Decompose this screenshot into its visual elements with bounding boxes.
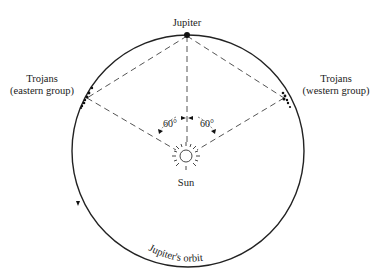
jupiter-label: Jupiter [164,17,210,29]
jupiter-dot [184,32,190,38]
trojans-diagram: Jupiter's orbit Jupiter Trojans (eastern… [0,0,379,274]
trojans-east-cluster [80,87,93,109]
sun-icon [172,142,200,170]
orbit-arrow-left-icon [76,201,80,206]
trojans-east-title: Trojans [3,73,81,85]
angle-left-label: 60° [159,118,181,130]
jupiter-to-east-line [87,36,187,98]
trojans-west-title: Trojans [295,73,377,85]
trojans-west-subtitle: (western group) [295,85,377,97]
angle-arrow-top-right-icon [188,116,193,120]
sun-label: Sun [172,177,200,189]
trojans-east-subtitle: (eastern group) [3,85,81,97]
diagram-canvas: Jupiter's orbit [0,0,379,274]
trojans-west-label: Trojans (western group) [295,73,377,97]
angle-arrow-top-left-icon [181,116,186,120]
angle-right-label: 60° [196,118,218,130]
orbit-label: Jupiter's orbit [147,242,203,263]
jupiter-orbit [72,35,304,267]
trojans-east-label: Trojans (eastern group) [3,73,81,97]
dashed-triangles [87,36,284,150]
